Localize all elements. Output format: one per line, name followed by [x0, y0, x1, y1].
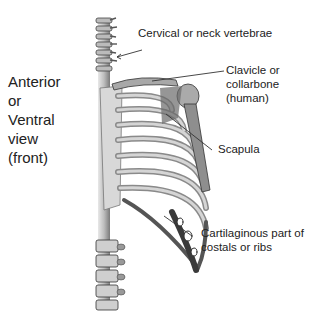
- view-label-line: view: [8, 129, 61, 148]
- clavicle-leader: [152, 71, 224, 81]
- cervical-arrow: [117, 50, 142, 57]
- sternum: [100, 86, 122, 210]
- scapula-label: Scapula: [218, 142, 260, 156]
- clavicle-label: Clavicle or collarbone (human): [226, 63, 280, 105]
- view-label-line: Ventral: [8, 110, 61, 129]
- anatomy-diagram: Anterior or Ventral view (front) Cervica…: [0, 0, 322, 319]
- clavicle-label-line: (human): [226, 91, 280, 105]
- view-label: Anterior or Ventral view (front): [8, 72, 61, 167]
- cervical-label: Cervical or neck vertebrae: [138, 26, 272, 40]
- view-label-line: (front): [8, 148, 61, 167]
- clavicle-label-line: collarbone: [226, 77, 280, 91]
- view-label-line: Anterior: [8, 72, 61, 91]
- cartilage-label-line: costals or ribs: [201, 240, 304, 254]
- cartilage-label-line: Cartilaginous part of: [201, 226, 304, 240]
- view-label-line: or: [8, 91, 61, 110]
- cartilage-label: Cartilaginous part of costals or ribs: [201, 226, 304, 254]
- clavicle-label-line: Clavicle or: [226, 63, 280, 77]
